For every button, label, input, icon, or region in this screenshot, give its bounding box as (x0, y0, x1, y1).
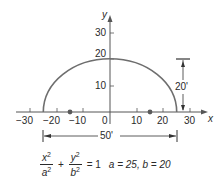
x-tick-label: −30 (16, 116, 33, 126)
focus-right (148, 110, 153, 115)
y-axis (108, 15, 115, 124)
x-tick-label: −10 (69, 116, 86, 126)
ellipse-diagram: y x −30 −20 −10 0 10 20 30 10 20 30 20' … (0, 0, 222, 184)
x-axis-label: x (208, 114, 213, 124)
fraction-x: x2 a2 (40, 151, 53, 178)
arrow-right-icon (169, 134, 176, 138)
y-axis-label: y (102, 10, 107, 20)
x-tick-label: −20 (43, 116, 60, 126)
fraction-y: y2 b2 (69, 151, 82, 178)
equals-one: = 1 (87, 159, 101, 170)
x-tick-label: 10 (131, 116, 142, 126)
arrow-up-icon (181, 61, 185, 67)
y-axis-arrow-icon (108, 15, 113, 22)
ellipse-parameters: a = 25, b = 20 (109, 159, 171, 170)
x-axis-arrow-icon (201, 110, 208, 115)
arrow-left-icon (44, 134, 51, 138)
x-axis (16, 108, 208, 115)
arrow-down-icon (181, 105, 185, 111)
x-tick-label: 20 (157, 116, 168, 126)
x-tick-label: 30 (184, 116, 195, 126)
y-tick-label: 10 (95, 81, 106, 91)
y-tick-label: 30 (95, 28, 106, 38)
x-tick-label: 0 (102, 116, 108, 126)
width-dimension-label: 50' (100, 131, 113, 141)
plus-sign: + (58, 159, 64, 170)
focus-left (68, 110, 73, 115)
height-dimension-label: 20' (175, 82, 188, 92)
y-tick-label: 20 (95, 49, 106, 59)
ellipse-equation: x2 a2 + y2 b2 = 1 a = 25, b = 20 (40, 150, 171, 178)
